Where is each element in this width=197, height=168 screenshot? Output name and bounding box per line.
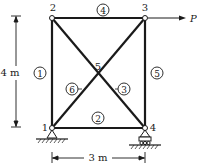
member-label-1: 1 [34,67,46,79]
width-label: 3 m [88,152,108,163]
svg-text:1: 1 [37,69,43,79]
node-label-4: 4 [150,122,156,133]
svg-text:2: 2 [95,114,101,124]
svg-text:4: 4 [100,6,106,16]
svg-text:5: 5 [154,69,160,79]
node-label-3: 3 [142,2,148,13]
member-label-4: 4 [97,4,109,16]
member-label-3: 3 [118,83,130,95]
joint-2 [50,16,55,21]
joint-3 [143,16,148,21]
member-label-6: 6 [66,83,78,95]
load-label: P [189,13,197,24]
node-label-1: 1 [42,122,48,133]
svg-text:3: 3 [121,85,127,95]
pin-support [36,130,68,143]
svg-text:6: 6 [69,85,75,95]
roller-support [129,130,161,149]
member-label-5: 5 [151,67,163,79]
truss-diagram: 1 2 3 4 5 6 2 3 1 4 5 [0,0,197,168]
node-label-5: 5 [95,61,101,72]
node-label-2: 2 [50,2,56,13]
height-label: 4 m [0,67,20,78]
member-label-2: 2 [92,112,104,124]
load-arrow: P [148,13,197,24]
